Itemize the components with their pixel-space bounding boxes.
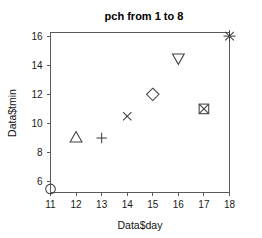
x-tick-label: 18 xyxy=(224,199,236,210)
y-tick-label: 6 xyxy=(37,176,43,187)
y-axis-label: Data$tmin xyxy=(6,89,18,137)
x-tick-label: 11 xyxy=(45,199,56,210)
x-tick-label: 15 xyxy=(147,199,159,210)
x-axis-label: Data$day xyxy=(118,219,164,231)
y-tick-label: 16 xyxy=(31,31,43,42)
y-tick-label: 10 xyxy=(31,118,43,129)
x-tick-label: 17 xyxy=(198,199,210,210)
data-point xyxy=(224,30,236,42)
y-tick-label: 14 xyxy=(31,60,43,71)
y-tick-label: 12 xyxy=(31,89,43,100)
x-tick-label: 12 xyxy=(71,199,83,210)
x-tick-label: 13 xyxy=(96,199,108,210)
x-tick-label: 16 xyxy=(173,199,185,210)
chart-container: pch from 1 to 8 1112131415161718 6810121… xyxy=(0,0,262,238)
chart-title: pch from 1 to 8 xyxy=(105,10,184,22)
scatter-plot: pch from 1 to 8 1112131415161718 6810121… xyxy=(0,0,262,238)
x-tick-label: 14 xyxy=(122,199,134,210)
y-tick-label: 8 xyxy=(37,147,43,158)
